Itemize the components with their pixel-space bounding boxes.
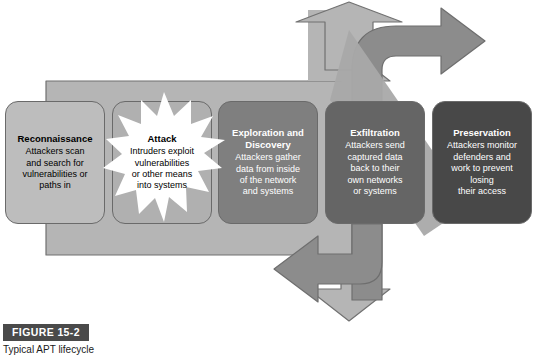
light-flow-arrow-upper-leg — [296, 2, 402, 81]
stage-title: Attack — [147, 133, 176, 145]
stage-title: Reconnaissance — [18, 133, 93, 145]
stage-box-exploration-and-discovery[interactable]: Exploration and Discovery Attackers gath… — [218, 101, 318, 224]
stage-description: Attackers monitor defenders and work to … — [447, 140, 517, 197]
figure-caption-text: Typical APT lifecycle — [3, 344, 303, 356]
dark-return-arrow — [274, 224, 382, 302]
stage-title: Exfiltration — [350, 127, 400, 139]
stage-description: Intruders exploit vulnerabilities or oth… — [130, 146, 194, 192]
figure-number-badge: FIGURE 15-2 — [3, 324, 89, 341]
stage-box-preservation[interactable]: Preservation Attackers monitor defenders… — [432, 101, 532, 224]
stage-description: Attackers send captured data back to the… — [345, 140, 405, 197]
stage-description: Attackers scan and search for vulnerabil… — [22, 146, 87, 192]
stage-box-exfiltration[interactable]: Exfiltration Attackers send captured dat… — [325, 101, 425, 224]
stage-title: Preservation — [453, 127, 511, 139]
figure-caption-block: FIGURE 15-2 Typical APT lifecycle — [3, 322, 303, 356]
stage-box-attack[interactable]: Attack Intruders exploit vulnerabilities… — [112, 101, 212, 224]
stage-box-reconnaissance[interactable]: Reconnaissance Attackers scan and search… — [5, 101, 105, 224]
stage-description: Attackers gather data from inside of the… — [235, 152, 301, 198]
stage-title: Exploration and Discovery — [223, 127, 313, 151]
